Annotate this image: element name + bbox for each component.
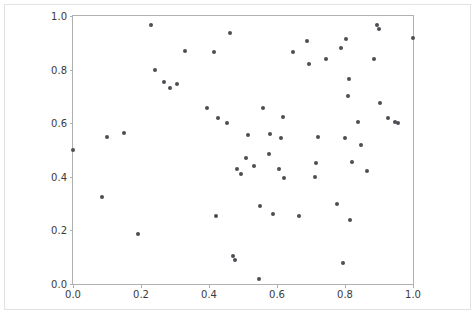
scatter-point	[136, 232, 140, 236]
plot-axes: 0.00.20.40.60.81.00.00.20.40.60.81.0	[72, 15, 414, 285]
scatter-point	[267, 152, 271, 156]
scatter-point	[346, 94, 350, 98]
x-axis-tick	[413, 284, 414, 288]
scatter-point	[375, 23, 379, 27]
y-axis-tick	[70, 123, 74, 124]
x-axis-tick	[277, 284, 278, 288]
y-axis-tick-label: 1.0	[51, 11, 67, 22]
scatter-point	[239, 172, 243, 176]
scatter-point	[277, 167, 281, 171]
scatter-point	[261, 106, 265, 110]
scatter-point	[377, 27, 381, 31]
scatter-point	[268, 132, 272, 136]
scatter-point	[225, 121, 229, 125]
x-axis-tick	[73, 284, 74, 288]
y-axis-tick	[70, 230, 74, 231]
scatter-point	[153, 68, 157, 72]
scatter-point	[175, 82, 179, 86]
scatter-point	[71, 148, 75, 152]
scatter-point	[365, 169, 369, 173]
data-points-layer	[73, 16, 413, 284]
scatter-point	[348, 218, 352, 222]
scatter-point	[231, 254, 235, 258]
x-axis-tick	[209, 284, 210, 288]
x-axis-tick-label: 0.2	[133, 289, 149, 300]
scatter-point	[411, 36, 415, 40]
y-axis-tick-label: 0.4	[51, 171, 67, 182]
scatter-point	[305, 39, 309, 43]
scatter-point	[347, 77, 351, 81]
scatter-point	[257, 277, 261, 281]
scatter-point	[214, 214, 218, 218]
x-axis-tick-label: 1.0	[405, 289, 421, 300]
scatter-point	[291, 50, 295, 54]
x-axis-tick-label: 0.8	[337, 289, 353, 300]
y-axis-tick-label: 0.2	[51, 225, 67, 236]
scatter-point	[281, 115, 285, 119]
y-axis-tick-label: 0.8	[51, 64, 67, 75]
scatter-point	[105, 135, 109, 139]
y-axis-tick	[70, 16, 74, 17]
scatter-point	[343, 136, 347, 140]
scatter-point	[339, 46, 343, 50]
scatter-point	[168, 86, 172, 90]
scatter-point	[258, 204, 262, 208]
x-axis-tick	[345, 284, 346, 288]
scatter-point	[279, 136, 283, 140]
scatter-point	[378, 101, 382, 105]
scatter-point	[297, 214, 301, 218]
scatter-point	[252, 164, 256, 168]
y-axis-tick	[70, 177, 74, 178]
scatter-point	[324, 57, 328, 61]
scatter-point	[282, 176, 286, 180]
scatter-point	[307, 62, 311, 66]
scatter-point	[396, 121, 400, 125]
scatter-point	[183, 49, 187, 53]
scatter-point	[372, 57, 376, 61]
scatter-point	[122, 131, 126, 135]
y-axis-tick	[70, 70, 74, 71]
scatter-point	[212, 50, 216, 54]
scatter-point	[341, 261, 345, 265]
y-axis-tick-label: 0.6	[51, 118, 67, 129]
scatter-point	[228, 31, 232, 35]
scatter-point	[246, 133, 250, 137]
scatter-point	[216, 116, 220, 120]
x-axis-tick-label: 0.0	[65, 289, 81, 300]
scatter-plot-figure: 0.00.20.40.60.81.00.00.20.40.60.81.0	[0, 0, 476, 315]
scatter-point	[356, 120, 360, 124]
y-axis-tick	[70, 284, 74, 285]
scatter-point	[335, 202, 339, 206]
scatter-point	[314, 161, 318, 165]
scatter-point	[344, 37, 348, 41]
scatter-point	[162, 80, 166, 84]
scatter-point	[233, 258, 237, 262]
scatter-point	[244, 156, 248, 160]
scatter-point	[316, 135, 320, 139]
scatter-point	[350, 160, 354, 164]
x-axis-tick-label: 0.6	[269, 289, 285, 300]
scatter-point	[359, 143, 363, 147]
x-axis-tick-label: 0.4	[201, 289, 217, 300]
scatter-point	[386, 116, 390, 120]
x-axis-tick	[141, 284, 142, 288]
scatter-point	[205, 106, 209, 110]
scatter-point	[235, 167, 239, 171]
scatter-point	[271, 212, 275, 216]
scatter-point	[149, 23, 153, 27]
scatter-point	[100, 195, 104, 199]
y-axis-tick-label: 0.0	[51, 279, 67, 290]
scatter-point	[313, 175, 317, 179]
